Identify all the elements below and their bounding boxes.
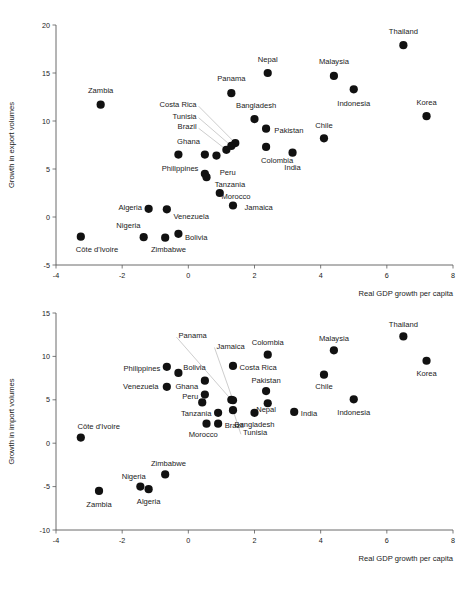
data-point-thailand[interactable] [399,332,407,340]
data-point-nepal[interactable] [264,69,272,77]
point-label-morocco: Morocco [221,192,250,201]
point-label-philippines: Philippines [162,164,199,173]
point-label-korea: Korea [416,369,437,378]
y-axis-title: Growth in import volumes [7,378,16,464]
data-point-morocco[interactable] [202,420,210,428]
data-point-algeria[interactable] [145,205,153,213]
data-point-jamaica[interactable] [229,396,237,404]
data-point-bolivia[interactable] [174,369,182,377]
data-point-tanzania[interactable] [214,409,222,417]
import-volumes-chart-panel: -10-5051015-4-202468Real GDP growth per … [0,300,462,604]
data-point-malaysia[interactable] [330,72,338,80]
data-point-ghana[interactable] [201,377,209,385]
data-point-zambia[interactable] [95,487,103,495]
data-point-indonesia[interactable] [350,395,358,403]
point-label-bangladesh: Bangladesh [236,101,276,110]
y-tick-label: -10 [40,526,50,535]
y-tick-label: 0 [46,439,50,448]
data-point-india[interactable] [290,408,298,416]
data-point-zimbabwe[interactable] [161,234,169,242]
data-point-peru[interactable] [212,151,220,159]
point-label-pakistan: Pakistan [252,376,281,385]
data-point-panama[interactable] [227,89,235,97]
data-point-ghana[interactable] [201,151,209,159]
data-point-pakistan[interactable] [262,387,270,395]
data-point-zambia[interactable] [97,101,105,109]
data-point-tunisia[interactable] [229,406,237,414]
data-point-philippines[interactable] [163,363,171,371]
label-leader-line [214,347,233,400]
data-point-brazil[interactable] [214,420,222,428]
x-tick-label: 6 [385,536,389,545]
data-point-indonesia[interactable] [350,85,358,93]
data-point-pakistan[interactable] [262,125,270,133]
data-point-peru2[interactable] [198,398,206,406]
x-tick-label: 4 [319,536,323,545]
data-point-indonesia2[interactable] [229,201,237,209]
data-point-peru[interactable] [201,390,209,398]
data-point-costa-rica[interactable] [229,362,237,370]
data-point-algeria[interactable] [145,485,153,493]
data-point-colombia[interactable] [262,143,270,151]
y-tick-label: 5 [46,395,50,404]
point-label-zimbabwe: Zimbabwe [151,245,186,254]
point-label-panama: Panama [178,331,207,340]
data-point-nigeria[interactable] [140,233,148,241]
point-label-chile: Chile [315,121,332,130]
point-label-bolivia: Bolivia [183,363,206,372]
y-tick-label: 20 [42,21,50,30]
data-point-morocco[interactable] [202,173,210,181]
point-label-peru: Peru [182,392,198,401]
data-point-c-te-d-ivoire[interactable] [77,433,85,441]
export-volumes-chart-panel: -505101520-4-202468Real GDP growth per c… [0,0,462,300]
x-tick-label: 0 [186,536,190,545]
data-point-bangladesh[interactable] [250,115,258,123]
data-point-venezuela[interactable] [163,205,171,213]
point-label-thailand: Thailand [389,320,418,329]
point-label-chile: Chile [315,382,332,391]
data-point-c-te-d-ivoire[interactable] [77,233,85,241]
x-tick-label: -4 [53,271,59,280]
point-label-tunisia: Tunisia [172,112,197,121]
point-label-nigeria: Nigeria [122,472,147,481]
point-label-thailand: Thailand [389,27,418,36]
point-label-brazil: Brazil [178,122,197,131]
x-tick-label: 2 [253,536,257,545]
data-point-colombia[interactable] [264,351,272,359]
label-leader-line [199,106,236,143]
data-point-chile[interactable] [320,134,328,142]
x-axis-title: Real GDP growth per capita [359,554,454,563]
point-label-india: India [284,163,301,172]
point-label-ghana: Ghana [175,382,199,391]
data-point-venezuela[interactable] [163,383,171,391]
data-point-zimbabwe[interactable] [161,470,169,478]
figure-page: -505101520-4-202468Real GDP growth per c… [0,0,462,604]
data-point-brazil[interactable] [222,146,230,154]
label-leader-line [199,128,227,150]
data-point-chile[interactable] [320,371,328,379]
x-tick-label: -2 [119,271,125,280]
data-point-korea[interactable] [422,357,430,365]
x-tick-label: 8 [451,271,455,280]
data-point-bolivia[interactable] [174,230,182,238]
point-label-tunisia: Tunisia [243,428,268,437]
data-point-thailand[interactable] [399,41,407,49]
data-point-nigeria[interactable] [136,483,144,491]
import-volumes-scatter-plot: -10-5051015-4-202468Real GDP growth per … [0,300,462,604]
point-label-indonesia: Indonesia [337,99,371,108]
data-point-malaysia[interactable] [330,346,338,354]
y-tick-label: 15 [42,309,50,318]
data-point-philippines[interactable] [174,151,182,159]
point-label-algeria: Algeria [137,497,161,506]
point-label-jamaica: Jamaica [245,203,274,212]
y-tick-label: 15 [42,69,50,78]
y-tick-label: 0 [46,213,50,222]
point-label-algeria: Algeria [118,203,142,212]
point-label-philippines: Philippines [123,364,160,373]
point-label-costa-rica: Costa Rica [159,100,197,109]
point-label-peru: Peru [220,168,236,177]
x-tick-label: 2 [253,271,257,280]
y-axis-title: Growth in export volumes [7,102,16,188]
point-label-tanzania: Tanzania [181,409,212,418]
data-point-korea[interactable] [422,112,430,120]
